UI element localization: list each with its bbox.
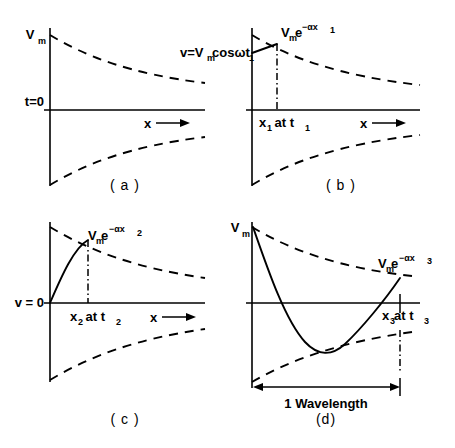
panel-b-marker-x: x [259, 115, 267, 130]
panel-c-upper-envelope [50, 227, 205, 278]
panel-d-caption: (d) [316, 411, 336, 427]
panel-d-y-axis-label: V [231, 220, 240, 235]
panel-b-marker-rest: at t [271, 115, 295, 130]
panel-a-origin-label: t=0 [25, 94, 44, 109]
panel-b: v=V m cosωt 1 V m e −αx 1 x 1 at t 1 x (… [180, 22, 420, 193]
panel-c-caption: ( c ) [110, 411, 139, 427]
panel-c-annotation-exp-base: e [101, 228, 108, 243]
panel-b-x-arrow-head [396, 119, 406, 127]
panel-b-annotation-sup-sub: 1 [330, 25, 335, 35]
panel-b-annotation-sup: −αx [302, 22, 318, 32]
panel-d-marker-rest: at t [394, 308, 414, 323]
panel-c-marker-rest: at t [82, 309, 106, 324]
panel-d-annotation-sup-sub: 3 [427, 256, 432, 266]
panel-b-equation-sub2: 1 [249, 53, 254, 63]
panel-d-wave [253, 227, 400, 353]
panel-b-equation-text: v=V [180, 45, 204, 60]
panel-c-x-axis-label: x [150, 310, 158, 325]
panel-d-marker-rest-sub: 3 [424, 316, 429, 326]
panel-b-x-axis-label: x [360, 116, 368, 131]
panel-d-annotation: V m e −αx 3 [378, 253, 432, 274]
panel-d-wavelength-dimension: 1 Wavelength [253, 378, 400, 411]
panel-b-equation-rest: cosωt [212, 45, 250, 60]
panel-a-x-axis-label: x [144, 116, 152, 131]
panel-a-x-arrow-head [180, 119, 190, 127]
panel-b-wave-segment [252, 44, 277, 53]
panel-d-annotation-exp-base: e [391, 256, 398, 271]
panel-d-annotation-sup: −αx [399, 253, 415, 263]
panel-d-marker-label: x 3 at t 3 [382, 308, 429, 326]
figure-root: V m t=0 x ( a ) v=V m cosωt 1 V m e −αx … [0, 0, 455, 448]
panel-c-lower-envelope [50, 329, 205, 380]
panel-b-annotation: V m e −αx 1 [281, 22, 335, 43]
panel-c-x-arrow-head [186, 313, 196, 321]
panel-c-marker-x: x [70, 309, 78, 324]
panel-a-y-axis-label-sub: m [38, 36, 46, 46]
panel-d-lower-envelope [252, 332, 412, 382]
figure-svg: V m t=0 x ( a ) v=V m cosωt 1 V m e −αx … [0, 0, 455, 448]
panel-c-marker-rest-sub: 2 [116, 317, 121, 327]
panel-a-y-axis-label: V [26, 27, 35, 42]
panel-b-marker-rest-sub: 1 [305, 123, 310, 133]
panel-d-marker-x: x [382, 308, 390, 323]
panel-d-dimension-arrow-right [390, 383, 400, 391]
panel-b-equation: v=V m cosωt 1 [180, 45, 254, 63]
panel-c-annotation-sup: −αx [109, 224, 125, 234]
panel-c-annotation-sup-sub: 2 [137, 228, 142, 238]
panel-d-dimension-label: 1 Wavelength [284, 396, 367, 411]
panel-d: V m V m e −αx 3 x 3 at t 3 1 Wavelength … [231, 220, 432, 427]
panel-c-annotation: V m e −αx 2 [88, 224, 142, 246]
panel-d-dimension-arrow-left [253, 383, 263, 391]
panel-c-origin-label: v = 0 [15, 295, 44, 310]
panel-a-caption: ( a ) [110, 177, 140, 193]
panel-b-marker-label: x 1 at t 1 [259, 115, 310, 133]
panel-a: V m t=0 x ( a ) [25, 27, 205, 193]
panel-c-marker-label: x 2 at t 2 [70, 309, 121, 327]
panel-b-caption: ( b ) [326, 177, 356, 193]
panel-d-y-axis-label-sub: m [242, 229, 250, 239]
panel-c: V m e −αx 2 v = 0 x 2 at t 2 x ( c ) [15, 222, 205, 427]
panel-c-wave-segment [50, 240, 88, 303]
